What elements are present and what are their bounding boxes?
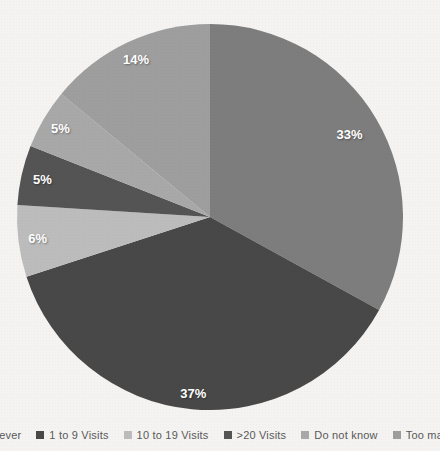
legend-label: 10 to 19 Visits: [137, 429, 209, 441]
legend-label: Too many: [406, 429, 440, 441]
legend-item-1-to-9-visits: 1 to 9 Visits: [36, 429, 108, 441]
legend-item-too-many: Too many: [393, 429, 440, 441]
legend-swatch-icon: [393, 431, 401, 439]
data-label-do-not-know: 5%: [51, 121, 70, 136]
legend-item-10-to-19-visits: 10 to 19 Visits: [124, 429, 209, 441]
legend-swatch-icon: [301, 431, 309, 439]
legend-label: 1 to 9 Visits: [49, 429, 108, 441]
pie-chart-figure: 33%37%6%5%5%14% Never1 to 9 Visits10 to …: [0, 0, 440, 451]
data-label-1-to-9-visits: 37%: [180, 386, 206, 401]
legend-swatch-icon: [36, 431, 44, 439]
legend-item-do-not-know: Do not know: [301, 429, 377, 441]
chart-legend: Never1 to 9 Visits10 to 19 Visits>20 Vis…: [0, 429, 440, 441]
data-label-too-many: 14%: [123, 52, 149, 67]
legend-label: Do not know: [314, 429, 377, 441]
data-label-never: 33%: [336, 127, 362, 142]
data-label-10-to-19-visits: 6%: [28, 231, 47, 246]
legend-swatch-icon: [224, 431, 232, 439]
legend-swatch-icon: [124, 431, 132, 439]
legend-item-never: Never: [0, 429, 21, 441]
data-label-20-visits: 5%: [33, 172, 52, 187]
legend-label: >20 Visits: [237, 429, 287, 441]
pie-chart: 33%37%6%5%5%14%: [0, 0, 440, 451]
legend-item-20-visits: >20 Visits: [224, 429, 287, 441]
legend-label: Never: [0, 429, 21, 441]
